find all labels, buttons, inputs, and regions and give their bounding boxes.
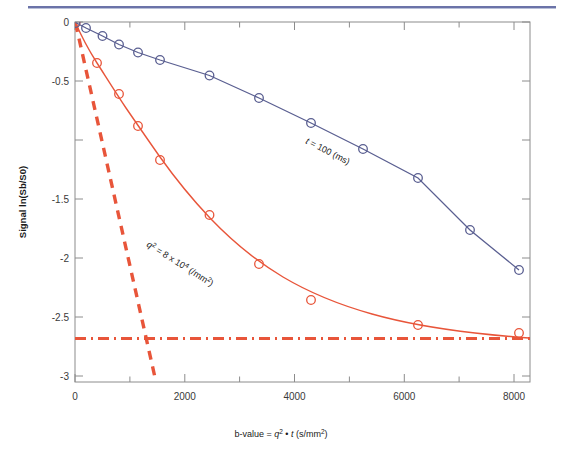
y-axis-title-text: Signal ln(Sb/S0) [17,166,28,238]
y-tick-labels: 0 -0.5 -1.5 -2 -2.5 -3 [52,17,70,382]
y-tick-label: -3 [60,371,69,382]
y-tick-label: -2.5 [52,312,70,323]
y-tick-label: -2 [60,253,69,264]
x-axis-title-dot: • [283,429,291,439]
x-tick-label: 2000 [174,391,197,402]
x-tick-label: 6000 [393,391,416,402]
y-axis-title: Signal ln(Sb/S0) [17,166,28,238]
x-tick-labels: 0 2000 4000 6000 8000 [72,391,525,402]
x-axis-title-part1: b-value = [234,429,274,439]
y-tick-label: -1.5 [52,194,70,205]
chart-canvas: 0 -0.5 -1.5 -2 -2.5 -3 0 2000 4000 6000 … [0,0,562,463]
y-tick-label: 0 [63,17,69,28]
x-axis-title-part3: ) [325,429,328,439]
x-axis-title: b-value = q2 • t (s/mm2) [234,428,327,440]
svg-text:b-value = q2 • t (s/mm2): b-value = q2 • t (s/mm2) [234,428,327,440]
x-tick-label: 8000 [503,391,526,402]
x-tick-label: 4000 [283,391,306,402]
figure-page: 0 -0.5 -1.5 -2 -2.5 -3 0 2000 4000 6000 … [0,0,562,463]
x-tick-label: 0 [72,391,78,402]
x-axis-title-part2: (s/mm [293,429,321,439]
y-tick-label: -0.5 [52,76,70,87]
